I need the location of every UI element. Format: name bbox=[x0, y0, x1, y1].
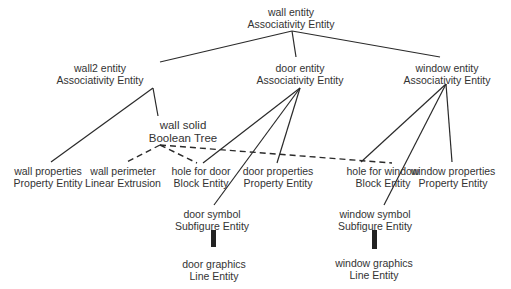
node-wall-perimeter-type: Linear Extrusion bbox=[85, 177, 161, 189]
node-window-symbol-type: Subfigure Entity bbox=[338, 220, 412, 232]
node-door-entity-name: door entity bbox=[257, 62, 344, 74]
node-door-graphics-type: Line Entity bbox=[182, 270, 246, 282]
edge-window-hole-window bbox=[361, 84, 446, 162]
node-wall-solid: wall solid Boolean Tree bbox=[149, 119, 217, 145]
node-hole-for-door-type: Block Entity bbox=[172, 177, 231, 189]
edge-wall2-wall-solid bbox=[153, 88, 158, 116]
node-wall2-entity-name: wall2 entity bbox=[57, 62, 144, 74]
connector-lines bbox=[0, 0, 511, 289]
node-door-symbol: door symbol Subfigure Entity bbox=[175, 208, 249, 232]
node-door-properties-type: Property Entity bbox=[243, 177, 314, 189]
node-window-graphics: window graphics Line Entity bbox=[335, 257, 413, 281]
edge-door-door-properties bbox=[277, 88, 300, 163]
node-window-symbol-name: window symbol bbox=[338, 208, 412, 220]
door-graphics-bar bbox=[211, 230, 216, 247]
node-window-properties: window properties Property Entity bbox=[411, 165, 496, 189]
node-wall-solid-name: wall solid bbox=[149, 119, 217, 132]
node-hole-for-door: hole for door Block Entity bbox=[172, 165, 231, 189]
edge-wall-solid-wall-perimeter bbox=[127, 145, 160, 162]
node-hole-for-window-type: Block Entity bbox=[347, 177, 420, 189]
node-wall-properties-name: wall properties bbox=[14, 165, 83, 177]
edge-wall2-wall-properties bbox=[51, 88, 153, 162]
edge-wall-wall2 bbox=[160, 31, 292, 62]
node-wall-entity-type: Associativity Entity bbox=[248, 18, 335, 30]
node-window-graphics-name: window graphics bbox=[335, 257, 413, 269]
node-door-entity-type: Associativity Entity bbox=[257, 74, 344, 86]
node-wall-perimeter: wall perimeter Linear Extrusion bbox=[85, 165, 161, 189]
node-window-entity-type: Associativity Entity bbox=[404, 74, 491, 86]
node-wall-properties-type: Property Entity bbox=[14, 177, 83, 189]
node-wall-properties: wall properties Property Entity bbox=[14, 165, 83, 189]
node-window-symbol: window symbol Subfigure Entity bbox=[338, 208, 412, 232]
edge-wall-solid-hole-window bbox=[160, 145, 392, 163]
node-wall-solid-type: Boolean Tree bbox=[149, 132, 217, 145]
node-hole-for-window-name: hole for window bbox=[347, 165, 420, 177]
node-wall-perimeter-name: wall perimeter bbox=[85, 165, 161, 177]
node-hole-for-window: hole for window Block Entity bbox=[347, 165, 420, 189]
node-window-graphics-type: Line Entity bbox=[335, 269, 413, 281]
node-window-properties-type: Property Entity bbox=[411, 177, 496, 189]
window-graphics-bar bbox=[372, 230, 377, 249]
edge-wall-window bbox=[292, 31, 440, 57]
node-door-symbol-type: Subfigure Entity bbox=[175, 220, 249, 232]
node-door-symbol-name: door symbol bbox=[175, 208, 249, 220]
node-door-properties: door properties Property Entity bbox=[243, 165, 314, 189]
node-window-properties-name: window properties bbox=[411, 165, 496, 177]
edge-window-window-properties bbox=[446, 84, 452, 162]
node-hole-for-door-name: hole for door bbox=[172, 165, 231, 177]
entity-tree-diagram: wall entity Associativity Entity wall2 e… bbox=[0, 0, 511, 289]
node-door-properties-name: door properties bbox=[243, 165, 314, 177]
node-wall2-entity: wall2 entity Associativity Entity bbox=[57, 62, 144, 86]
node-wall-entity-name: wall entity bbox=[248, 6, 335, 18]
node-wall-entity: wall entity Associativity Entity bbox=[248, 6, 335, 30]
node-window-entity-name: window entity bbox=[404, 62, 491, 74]
node-window-entity: window entity Associativity Entity bbox=[404, 62, 491, 86]
node-wall2-entity-type: Associativity Entity bbox=[57, 74, 144, 86]
node-door-graphics-name: door graphics bbox=[182, 258, 246, 270]
edge-wall-door bbox=[292, 31, 296, 57]
node-door-graphics: door graphics Line Entity bbox=[182, 258, 246, 282]
node-door-entity: door entity Associativity Entity bbox=[257, 62, 344, 86]
